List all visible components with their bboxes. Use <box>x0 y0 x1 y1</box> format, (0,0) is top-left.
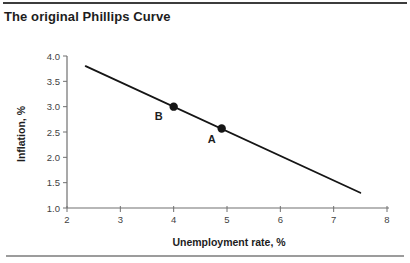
y-axis-title: Inflation, % <box>15 89 27 179</box>
x-tick-label: 5 <box>224 214 229 225</box>
x-tick-label: 6 <box>278 214 283 225</box>
point-label-A: A <box>208 133 216 145</box>
y-tick-label: 1.0 <box>47 203 60 214</box>
x-tick-label: 2 <box>64 214 69 225</box>
y-tick-label: 4.0 <box>47 51 60 62</box>
bottom-divider <box>6 255 404 257</box>
y-tick-label: 2.5 <box>47 127 60 138</box>
x-tick-label: 8 <box>384 214 389 225</box>
x-axis-title: Unemployment rate, % <box>127 236 331 248</box>
y-tick-label: 1.5 <box>47 177 60 188</box>
y-tick-label: 2.0 <box>47 152 60 163</box>
y-tick-label: 3.0 <box>47 101 60 112</box>
x-tick-label: 4 <box>171 214 176 225</box>
point-label-B: B <box>155 110 163 122</box>
y-tick-label: 3.5 <box>47 76 60 87</box>
plot-area: 23456784.03.53.02.52.01.51.0BA <box>0 0 410 263</box>
x-tick-label: 7 <box>331 214 336 225</box>
x-tick-label: 3 <box>118 214 123 225</box>
data-point-B <box>169 102 177 110</box>
phillips-curve-figure: The original Phillips Curve 23456784.03.… <box>0 0 410 263</box>
data-point-A <box>217 124 225 132</box>
